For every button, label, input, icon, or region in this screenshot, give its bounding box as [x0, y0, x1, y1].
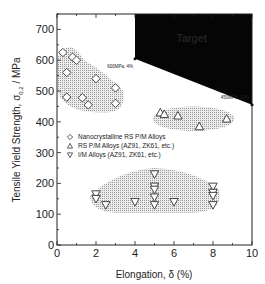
annotation-450mpa: 450MPa, 10% [221, 95, 249, 100]
y-tick-label: 700 [36, 23, 54, 35]
target-region: Target600MPa, 4%450MPa, 10% [107, 14, 253, 106]
legend-marker-triangle-up [67, 143, 72, 148]
y-tick-label: 100 [36, 208, 54, 220]
legend-label: Nanocrystalline RS P/M Alloys [78, 133, 166, 141]
y-tick-label: 0 [48, 239, 54, 251]
annotation-600mpa: 600MPa, 4% [107, 64, 133, 69]
target-label: Target [176, 32, 207, 44]
y-tick-label: 200 [36, 177, 54, 189]
legend-label: I/M Alloys (AZ91, ZK61, etc.) [78, 151, 161, 159]
y-tick-label: 600 [36, 54, 54, 66]
x-tick-label: 2 [93, 247, 99, 259]
x-axis-label: Elongation, δ (%) [116, 269, 193, 280]
x-tick-label: 6 [171, 247, 177, 259]
legend: Nanocrystalline RS P/M AlloysRS P/M Allo… [67, 133, 174, 159]
legend-marker-triangle-down [67, 153, 72, 158]
y-tick-label: 400 [36, 116, 54, 128]
x-tick-label: 4 [132, 247, 138, 259]
chart-container: Target600MPa, 4%450MPa, 10% 024681001002… [0, 0, 265, 284]
legend-marker-diamond [67, 134, 72, 139]
x-tick-label: 10 [246, 247, 258, 259]
target-vertex-600 [134, 57, 137, 60]
x-tick-label: 8 [210, 247, 216, 259]
target-polygon [135, 14, 252, 105]
y-axis-label: Tensile Yield Strength, σ0.2 / MPa [11, 57, 24, 203]
y-tick-label: 300 [36, 147, 54, 159]
y-tick-label: 500 [36, 85, 54, 97]
legend-label: RS P/M Alloys (AZ91, ZK61, etc.) [78, 142, 174, 150]
scatter-chart: Target600MPa, 4%450MPa, 10% 024681001002… [0, 0, 265, 284]
x-tick-label: 0 [54, 247, 60, 259]
